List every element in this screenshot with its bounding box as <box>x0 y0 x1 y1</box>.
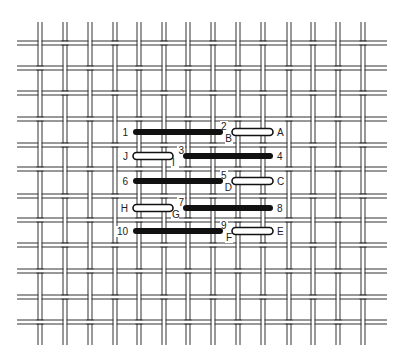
stitch-label-A: A <box>277 127 284 138</box>
back-stitch-H-G <box>133 205 173 212</box>
stitch-label-E: E <box>277 226 284 237</box>
stitch-label-9: 9 <box>221 220 227 231</box>
stitch-label-7: 7 <box>178 197 184 208</box>
stitch-label-5: 5 <box>221 170 227 181</box>
stitch-label-8: 8 <box>277 203 283 214</box>
stitch-label-C: C <box>277 176 284 187</box>
stitch-label-10: 10 <box>117 226 129 237</box>
stitch-label-4: 4 <box>277 151 283 162</box>
back-stitch-J-I <box>133 153 173 160</box>
stitch-label-I: I <box>172 157 175 168</box>
stitch-label-H: H <box>121 203 128 214</box>
stitch-label-G: G <box>172 209 180 220</box>
stitch-label-6: 6 <box>122 176 128 187</box>
stitch-label-D: D <box>225 182 232 193</box>
stitch-label-B: B <box>225 133 232 144</box>
stitch-label-2: 2 <box>221 121 227 132</box>
stitch-label-1: 1 <box>122 127 128 138</box>
back-stitch-D-C <box>232 178 273 185</box>
stitch-label-J: J <box>123 151 128 162</box>
stitch-label-F: F <box>226 232 232 243</box>
stitch-label-3: 3 <box>178 145 184 156</box>
back-stitch-F-E <box>232 228 273 235</box>
back-stitch-B-A <box>232 129 273 136</box>
canvas-stitch-diagram: 12BAJI3465DCHG78109FE <box>0 0 405 361</box>
